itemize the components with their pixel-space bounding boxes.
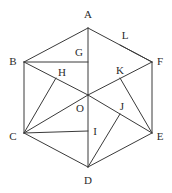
point-label-J: J (120, 101, 124, 112)
interior-chords (24, 28, 152, 167)
chord-CH (24, 78, 56, 133)
point-label-C: C (9, 131, 16, 142)
point-label-I: I (93, 126, 97, 137)
edge-CD (24, 133, 88, 167)
point-label-E: E (157, 131, 164, 142)
figure-canvas (0, 0, 172, 193)
point-label-K: K (116, 65, 124, 76)
point-label-F: F (157, 56, 163, 67)
point-label-D: D (84, 175, 92, 186)
chord-FL (120, 45, 152, 62)
edge-DE (88, 133, 152, 167)
point-label-L: L (122, 30, 129, 41)
point-label-G: G (75, 47, 83, 58)
chord-EK (120, 78, 152, 133)
point-label-A: A (84, 9, 92, 20)
hexagon-figure: ABCDEFOGHIJKL (0, 0, 172, 193)
point-label-O: O (76, 103, 84, 114)
chord-CI (24, 131, 88, 133)
point-label-B: B (9, 56, 16, 67)
point-label-H: H (58, 67, 66, 78)
